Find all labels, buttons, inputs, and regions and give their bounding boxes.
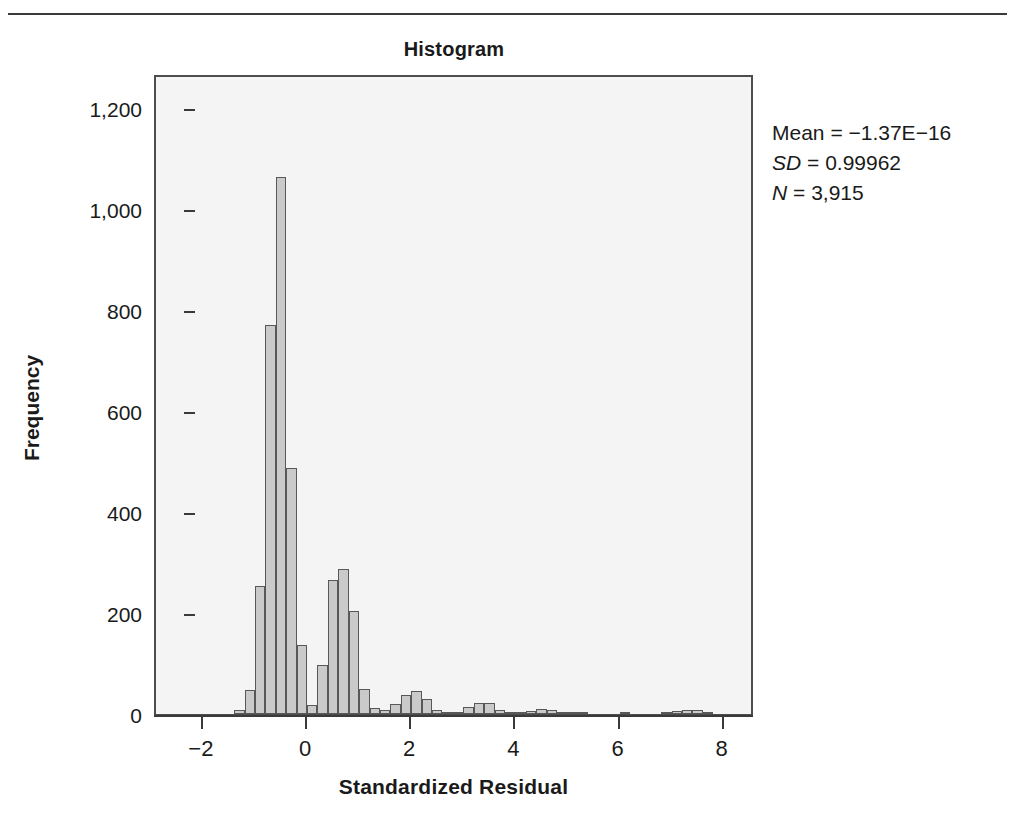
histogram-bar — [401, 695, 411, 714]
histogram-bar — [505, 712, 515, 714]
histogram-bar — [317, 665, 327, 714]
histogram-bar — [307, 705, 317, 714]
x-tick-label: 2 — [369, 736, 449, 762]
figure-page: Histogram 02004006008001,0001,200 Freque… — [0, 0, 1015, 839]
x-tick-label: 8 — [682, 736, 762, 762]
statistics-annotation: Mean = −1.37E−16 SD = 0.99962 N = 3,915 — [772, 118, 951, 208]
histogram-bar — [245, 690, 255, 714]
stat-mean: Mean = −1.37E−16 — [772, 118, 951, 148]
histogram-bar — [380, 710, 390, 714]
x-tick-label: 0 — [265, 736, 345, 762]
histogram-bar — [567, 712, 577, 714]
x-tick-mark — [722, 717, 724, 729]
histogram-bar — [620, 712, 630, 714]
histogram-bar — [484, 703, 494, 714]
x-tick-mark — [618, 717, 620, 729]
y-tick-mark — [184, 210, 195, 212]
y-tick-mark — [184, 412, 195, 414]
plot-area — [154, 75, 753, 716]
y-tick-mark — [184, 715, 195, 717]
top-divider-rule — [8, 13, 1007, 15]
stat-n: N = 3,915 — [772, 178, 951, 208]
y-tick-label: 200 — [52, 603, 142, 627]
histogram-bar — [370, 708, 380, 714]
y-tick-label: 0 — [52, 704, 142, 728]
x-axis-title: Standardized Residual — [154, 775, 753, 799]
y-axis-ticks: 02004006008001,0001,200 — [42, 0, 142, 839]
chart-title: Histogram — [154, 38, 754, 61]
histogram-bar — [557, 712, 567, 714]
y-tick-mark — [184, 311, 195, 313]
histogram-bar — [536, 709, 546, 714]
histogram-bar — [474, 703, 484, 714]
y-tick-mark — [184, 513, 195, 515]
histogram-bar — [359, 689, 369, 714]
histogram-bars — [156, 77, 751, 714]
x-tick-label: −2 — [161, 736, 241, 762]
histogram-bar — [661, 712, 671, 714]
x-tick-mark — [305, 717, 307, 729]
y-tick-mark — [184, 614, 195, 616]
stat-mean-value: −1.37E−16 — [848, 121, 951, 144]
histogram-bar — [578, 712, 588, 714]
histogram-bar — [390, 704, 400, 714]
histogram-bar — [234, 710, 244, 714]
histogram-bar — [422, 699, 432, 714]
y-tick-label: 600 — [52, 401, 142, 425]
histogram-bar — [515, 712, 525, 714]
histogram-bar — [463, 707, 473, 714]
histogram-bar — [411, 691, 421, 714]
y-axis-title: Frequency — [20, 198, 44, 618]
histogram-bar — [276, 177, 286, 714]
histogram-bar — [265, 325, 275, 714]
x-tick-label: 6 — [578, 736, 658, 762]
histogram-bar — [453, 712, 463, 714]
stat-sd-equals: = — [807, 151, 819, 174]
y-tick-label: 1,200 — [52, 98, 142, 122]
histogram-bar — [328, 580, 338, 714]
x-tick-mark — [513, 717, 515, 729]
stat-n-label: N — [772, 181, 787, 204]
stat-mean-equals: = — [830, 121, 842, 144]
histogram-bar — [703, 712, 713, 714]
stat-n-equals: = — [793, 181, 805, 204]
stat-sd-label: SD — [772, 151, 801, 174]
histogram-bar — [547, 710, 557, 714]
y-tick-label: 1,000 — [52, 199, 142, 223]
stat-mean-label: Mean — [772, 121, 825, 144]
histogram-bar — [526, 711, 536, 714]
histogram-bar — [349, 611, 359, 714]
stat-sd: SD = 0.99962 — [772, 148, 951, 178]
stat-sd-value: 0.99962 — [825, 151, 901, 174]
histogram-bar — [297, 645, 307, 714]
y-tick-label: 800 — [52, 300, 142, 324]
histogram-bar — [338, 569, 348, 714]
histogram-bar — [692, 710, 702, 714]
histogram-bar — [442, 712, 452, 714]
histogram-bar — [672, 711, 682, 714]
histogram-bar — [682, 710, 692, 714]
x-tick-label: 4 — [473, 736, 553, 762]
stat-n-value: 3,915 — [811, 181, 864, 204]
histogram-bar — [432, 710, 442, 714]
x-axis-line — [154, 715, 753, 717]
x-tick-mark — [409, 717, 411, 729]
histogram-bar — [286, 468, 296, 714]
y-tick-mark — [184, 109, 195, 111]
x-tick-mark — [201, 717, 203, 729]
histogram-bar — [495, 710, 505, 714]
histogram-bar — [255, 586, 265, 714]
y-tick-label: 400 — [52, 502, 142, 526]
